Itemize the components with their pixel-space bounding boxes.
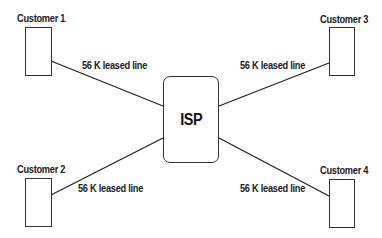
customer3-label: Customer 3 bbox=[320, 13, 368, 25]
customer4-node bbox=[329, 179, 355, 228]
customer2-label: Customer 2 bbox=[17, 163, 65, 175]
customer1-node bbox=[25, 27, 52, 76]
isp-label: ISP bbox=[180, 111, 202, 129]
customer4-label: Customer 4 bbox=[320, 164, 368, 176]
link-label-customer2: 56 K leased line bbox=[78, 182, 143, 194]
customer2-node bbox=[25, 178, 52, 227]
customer3-node bbox=[329, 27, 355, 76]
customer1-label: Customer 1 bbox=[17, 12, 65, 24]
link-label-customer3: 56 K leased line bbox=[240, 59, 305, 71]
link-label-customer4: 56 K leased line bbox=[240, 182, 305, 194]
isp-node: ISP bbox=[163, 76, 219, 163]
link-label-customer1: 56 K leased line bbox=[82, 59, 147, 71]
